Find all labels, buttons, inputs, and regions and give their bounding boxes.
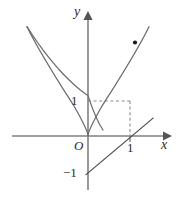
parabola-left-branch — [27, 27, 103, 130]
x-axis-label: x — [161, 138, 167, 152]
tangent-line — [86, 118, 153, 175]
x-axis — [12, 131, 172, 140]
math-figure-parabola-tangent: y x O 1 1 −1 — [0, 0, 178, 204]
y-axis-label: y — [74, 5, 80, 19]
point-marker-icon — [133, 40, 137, 44]
x-tick-label-1: 1 — [127, 141, 134, 154]
origin-label: O — [74, 139, 83, 152]
y-tick-label-1: 1 — [71, 94, 78, 107]
y-tick-label-negative-1: −1 — [63, 166, 77, 179]
y-axis-arrow-icon — [83, 11, 92, 20]
figure-canvas — [0, 0, 178, 204]
